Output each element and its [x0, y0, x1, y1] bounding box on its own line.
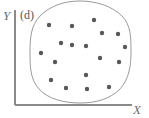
- data-points-group: [39, 18, 127, 91]
- data-point: [85, 87, 89, 91]
- axes-group: [15, 10, 132, 105]
- x-axis-label: X: [133, 103, 141, 116]
- data-point: [47, 23, 51, 27]
- data-point: [84, 44, 88, 48]
- y-axis-label: Y: [3, 9, 10, 22]
- data-point: [123, 45, 127, 49]
- panel-label: (d): [20, 9, 34, 22]
- data-point: [64, 86, 68, 90]
- data-point: [70, 43, 74, 47]
- data-point: [98, 56, 102, 60]
- scatter-plot-figure: Y X (d): [0, 0, 149, 118]
- data-point: [53, 60, 57, 64]
- data-point: [117, 60, 121, 64]
- data-point: [84, 73, 88, 77]
- data-point: [70, 24, 74, 28]
- data-point: [59, 41, 63, 45]
- region-outline-path: [30, 1, 131, 103]
- data-point: [107, 85, 111, 89]
- data-point: [39, 51, 43, 55]
- data-point: [49, 78, 53, 82]
- data-point: [116, 32, 120, 36]
- data-point: [100, 31, 104, 35]
- data-point: [92, 18, 96, 22]
